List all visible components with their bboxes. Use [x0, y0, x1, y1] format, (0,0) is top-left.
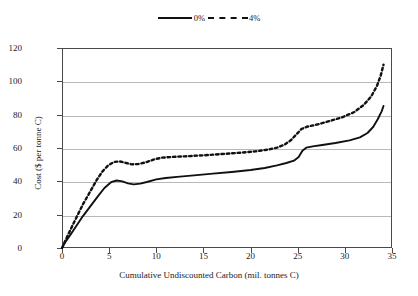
- x-axis-title: Cumulative Undiscounted Carbon (mil. ton…: [0, 270, 418, 280]
- y-axis-title: Cost ($ per tonne C): [33, 53, 43, 253]
- series-line-0%: [62, 106, 384, 248]
- series-line-4%: [62, 65, 384, 248]
- series-layer: [0, 0, 418, 296]
- chart-root: 0% 4% 02040608010012005101520253035 Cumu…: [0, 0, 418, 296]
